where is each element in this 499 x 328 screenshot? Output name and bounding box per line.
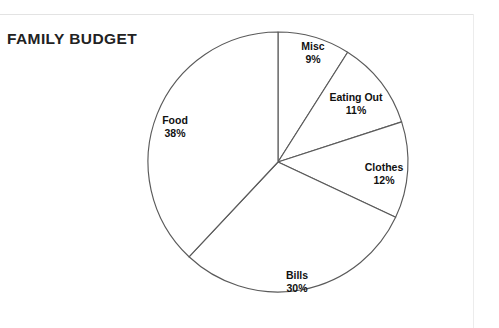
pie-label-name: Eating Out [329, 91, 382, 103]
pie-label-value: 38% [162, 127, 188, 140]
pie-label-name: Clothes [365, 161, 404, 173]
pie-label-name: Bills [286, 269, 308, 281]
pie-label-food: Food38% [162, 114, 188, 141]
pie-label-eating-out: Eating Out11% [329, 91, 382, 118]
pie-chart-svg [0, 0, 499, 328]
pie-label-value: 30% [286, 282, 308, 295]
pie-label-misc: Misc9% [301, 40, 324, 67]
pie-label-value: 9% [301, 53, 324, 66]
pie-label-clothes: Clothes12% [365, 161, 404, 188]
pie-label-value: 11% [329, 104, 382, 117]
pie-label-name: Misc [301, 40, 324, 52]
pie-label-bills: Bills30% [286, 269, 308, 296]
pie-chart: Misc9%Eating Out11%Clothes12%Bills30%Foo… [0, 0, 499, 328]
pie-label-value: 12% [365, 174, 404, 187]
pie-label-name: Food [162, 114, 188, 126]
chart-page: FAMILY BUDGET Misc9%Eating Out11%Clothes… [0, 0, 499, 328]
